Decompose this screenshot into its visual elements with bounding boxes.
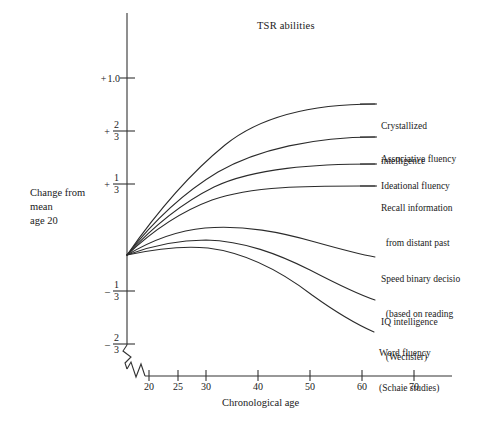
y-tick-sign-1: + xyxy=(101,73,107,84)
y-tick-numerator-5: 2 xyxy=(113,333,120,343)
y-tick-sign-2: + xyxy=(104,126,110,137)
y-axis-title-line-2: mean xyxy=(30,200,110,214)
x-tick-label-60: 60 xyxy=(348,381,376,392)
curve-speed-binary-decision xyxy=(127,227,375,257)
y-tick-numerator-4: 1 xyxy=(113,280,120,290)
x-axis-break-zigzag xyxy=(127,362,145,377)
curve-crystallized-intelligence xyxy=(127,104,375,255)
y-tick-denominator-3: 3 xyxy=(113,183,120,194)
x-axis-title: Chronological age xyxy=(222,397,299,409)
series-leader-lines xyxy=(360,104,377,186)
y-tick-denominator-5: 3 xyxy=(113,343,120,354)
y-axis-title: Change from mean age 20 xyxy=(30,186,110,228)
y-tick-fraction-5: 2 3 xyxy=(113,333,120,354)
x-tick-label-20: 20 xyxy=(135,381,163,392)
curve-ideational-fluency xyxy=(127,164,375,255)
chart-figure: TSR abilities Change from mean age 20 Ch… xyxy=(0,0,481,424)
series-label-word-fluency: Word fluency (Schaie studies) xyxy=(379,325,439,418)
y-tick-denominator-4: 3 xyxy=(113,290,120,301)
y-tick-numerator-2: 2 xyxy=(113,120,120,130)
y-tick-denominator-2: 3 xyxy=(113,130,120,141)
y-tick-sign-4: – xyxy=(105,286,110,297)
y-tick-value-1: 1.0 xyxy=(108,73,121,84)
chart-title: TSR abilities xyxy=(257,20,315,32)
series-label-line-2: from distant past xyxy=(381,238,453,250)
series-label-line-1: Speed binary decisio xyxy=(381,274,460,286)
y-tick-numerator-3: 1 xyxy=(113,173,120,183)
x-tick-label-50: 50 xyxy=(296,381,324,392)
x-tick-label-40: 40 xyxy=(244,381,272,392)
series-label-line-1: Word fluency xyxy=(379,348,439,360)
y-axis-title-line-3: age 20 xyxy=(30,214,110,228)
y-tick-fraction-3: 1 3 xyxy=(113,173,120,194)
y-tick-fraction-4: 1 3 xyxy=(113,280,120,301)
x-tick-label-25: 25 xyxy=(164,381,192,392)
y-tick-sign-3: + xyxy=(104,179,110,190)
y-tick-sign-5: – xyxy=(105,339,110,350)
x-tick-label-30: 30 xyxy=(192,381,220,392)
y-axis-title-line-1: Change from xyxy=(30,186,110,200)
y-tick-fraction-2: 2 3 xyxy=(113,120,120,141)
curve-word-fluency xyxy=(127,247,374,332)
series-label-line-1: Recall information xyxy=(381,203,453,215)
y-axis-break-zigzag xyxy=(123,345,131,369)
series-label-line-2: (Schaie studies) xyxy=(379,383,439,395)
series-curves xyxy=(127,104,375,332)
